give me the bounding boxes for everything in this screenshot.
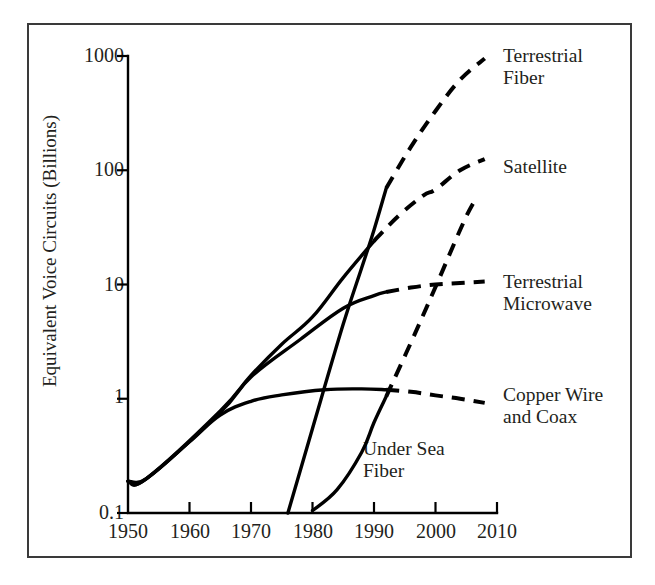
y-tick-label-0.1: 0.1 bbox=[48, 502, 124, 522]
y-tick-label-1: 1 bbox=[48, 386, 124, 406]
series-label-terrestrial-fiber: Terrestrial Fiber bbox=[503, 45, 583, 89]
series-label-terrestrial-microwave: Terrestrial Microwave bbox=[503, 271, 592, 315]
series-label-copper-wire: Copper Wire and Coax bbox=[503, 384, 603, 428]
y-tick-label-1000: 1000 bbox=[48, 45, 124, 65]
series-label-under-sea-fiber: Under Sea Fiber bbox=[363, 438, 445, 482]
y-tick-label-10: 10 bbox=[48, 274, 124, 294]
series-label-satellite: Satellite bbox=[503, 156, 567, 178]
y-tick-label-100: 100 bbox=[48, 159, 124, 179]
chart-figure: Equivalent Voice Circuits (Billions) 100… bbox=[0, 0, 655, 585]
x-tick-label-2010: 2010 bbox=[459, 521, 535, 541]
